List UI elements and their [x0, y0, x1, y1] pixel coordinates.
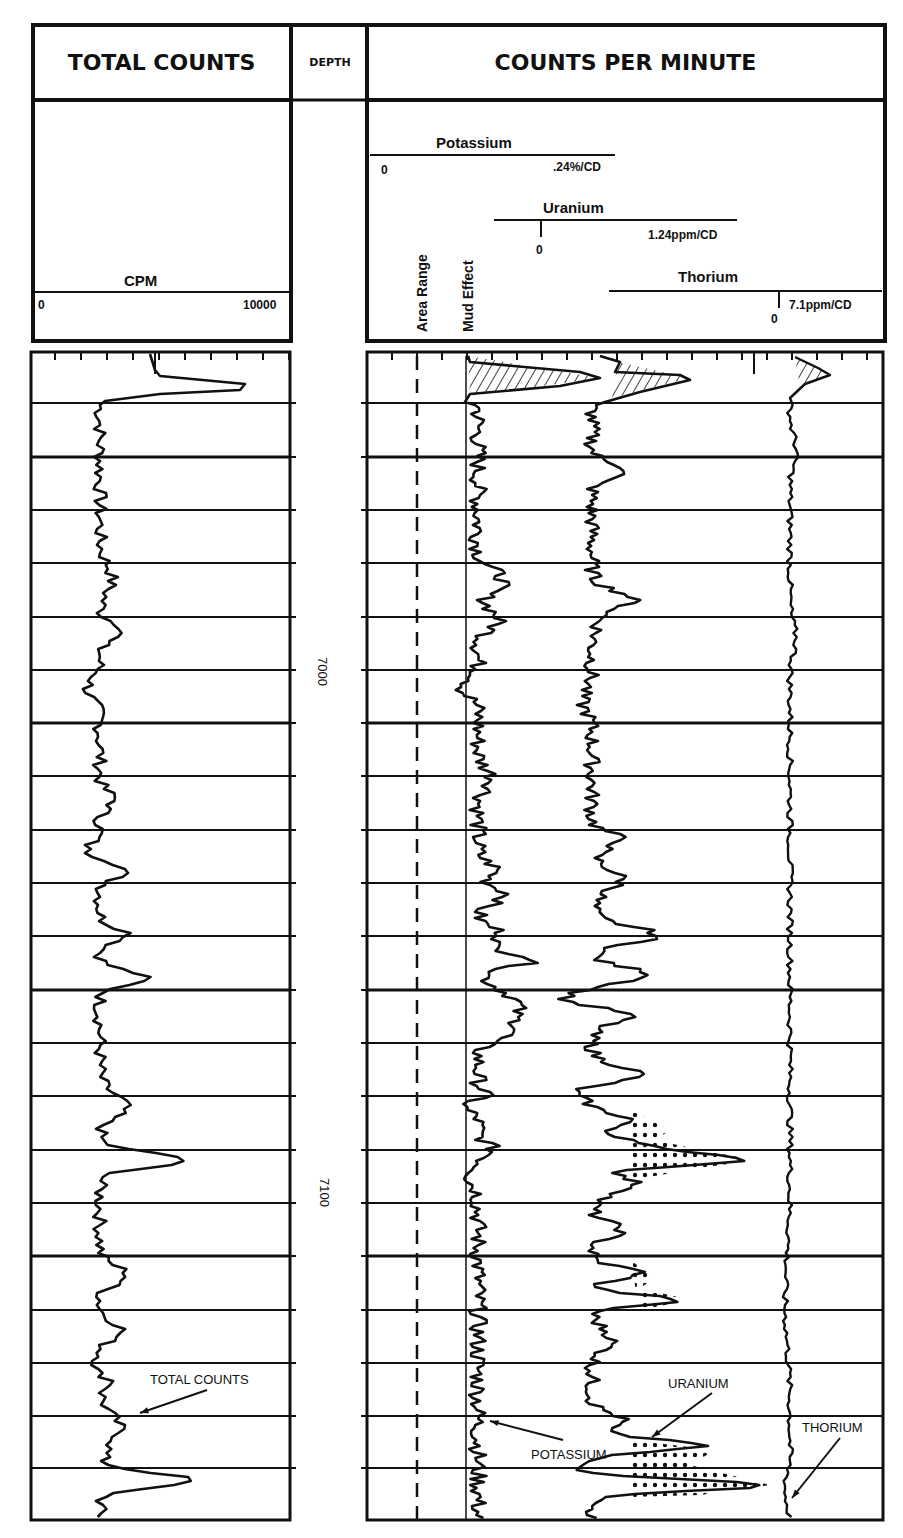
depth-mark-7000: 7000	[315, 657, 330, 686]
annotation-thorium: THORIUM	[802, 1420, 863, 1435]
annotation-potassium: POTASSIUM	[531, 1447, 607, 1462]
annotation-uranium: URANIUM	[668, 1376, 729, 1391]
log-chart	[0, 0, 903, 1538]
depth-mark-7100: 7100	[317, 1178, 332, 1207]
annotation-total-counts: TOTAL COUNTS	[150, 1372, 249, 1387]
